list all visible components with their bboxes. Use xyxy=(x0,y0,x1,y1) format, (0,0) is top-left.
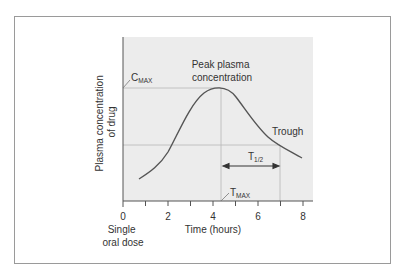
svg-text:4: 4 xyxy=(210,211,216,222)
y-axis-label: Plasma concentration of drug xyxy=(94,73,117,172)
x-tick-labels: 0 2 4 6 8 xyxy=(120,211,306,222)
svg-text:0: 0 xyxy=(120,211,126,222)
svg-text:8: 8 xyxy=(300,211,306,222)
x-ticks xyxy=(123,201,303,207)
pk-chart: CMAX Peak plasma concentration Trough T1… xyxy=(0,0,403,278)
svg-text:2: 2 xyxy=(165,211,171,222)
svg-text:6: 6 xyxy=(255,211,261,222)
single-oral-dose-label: Single oral dose xyxy=(102,224,144,248)
trough-label: Trough xyxy=(272,126,303,137)
x-axis-label: Time (hours) xyxy=(185,224,241,235)
